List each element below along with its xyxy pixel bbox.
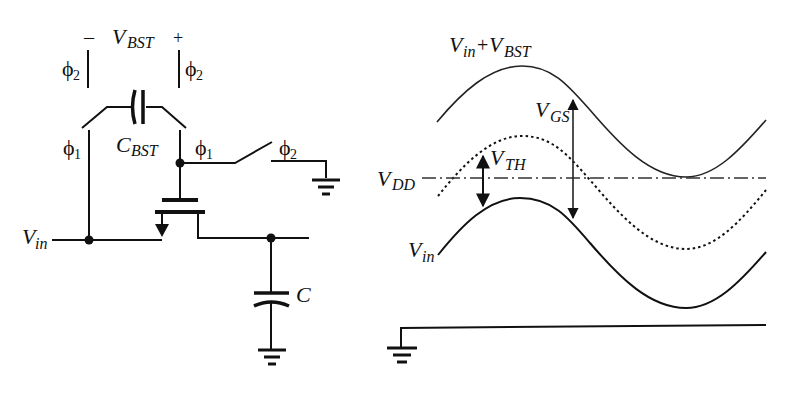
svg-text:V: V <box>112 24 128 49</box>
ground-icon <box>312 180 340 194</box>
ground-baseline <box>401 325 766 348</box>
phi1-right-label: ϕ 1 <box>195 135 213 162</box>
svg-text:V: V <box>489 32 505 57</box>
svg-text:+: + <box>173 28 183 48</box>
svg-text:V: V <box>490 145 506 170</box>
svg-text:1: 1 <box>74 147 81 162</box>
svg-text:ϕ: ϕ <box>279 135 291 160</box>
ground-icon <box>258 350 286 364</box>
svg-text:in: in <box>35 235 47 252</box>
vin-node-dot <box>85 236 94 245</box>
curve-vin-plus-vbst-minus-vth <box>438 136 766 249</box>
bootstrap-circuit: – V BST + ϕ 2 ϕ 2 C BST ϕ 1 <box>22 24 340 364</box>
phi1-left-label: ϕ 1 <box>63 135 81 162</box>
svg-text:V: V <box>377 166 393 191</box>
nmos-transistor-icon <box>155 200 270 238</box>
svg-text:TH: TH <box>505 156 527 173</box>
svg-text:BST: BST <box>127 34 155 51</box>
svg-text:1: 1 <box>206 147 213 162</box>
vdd-label: V DD <box>377 166 416 193</box>
vin-input-label: V in <box>22 224 47 252</box>
svg-text:GS: GS <box>550 108 570 125</box>
waveform-plot: V in + V BST V GS V TH V DD V in <box>377 32 766 362</box>
cbst-capacitor <box>82 90 186 128</box>
vgs-label: V GS <box>535 97 570 125</box>
svg-text:in: in <box>422 248 434 265</box>
svg-text:V: V <box>535 97 551 122</box>
vin-plus-vbst-label: V in + V BST <box>449 32 532 60</box>
svg-text:2: 2 <box>196 68 203 83</box>
vbst-label: – V BST + <box>83 24 183 51</box>
vth-label: V TH <box>490 145 527 173</box>
phi2-right-label: ϕ 2 <box>185 56 203 83</box>
svg-text:ϕ: ϕ <box>195 135 207 160</box>
svg-text:+: + <box>477 34 488 56</box>
svg-text:BST: BST <box>504 43 532 60</box>
svg-text:2: 2 <box>73 68 80 83</box>
bootstrapped-switch-figure: – V BST + ϕ 2 ϕ 2 C BST ϕ 1 <box>0 0 792 396</box>
phi2-left-label: ϕ 2 <box>62 56 80 83</box>
svg-text:ϕ: ϕ <box>62 56 74 81</box>
svg-text:ϕ: ϕ <box>63 135 75 160</box>
svg-text:DD: DD <box>391 176 416 193</box>
svg-text:C: C <box>116 132 131 157</box>
c-load-label: C <box>296 282 311 307</box>
cbst-label: C BST <box>116 132 159 159</box>
svg-text:in: in <box>463 43 475 60</box>
phi2-switch-label: ϕ 2 <box>279 135 297 162</box>
curve-vin-plus-vbst <box>437 66 766 177</box>
svg-text:ϕ: ϕ <box>185 56 197 81</box>
svg-text:–: – <box>83 26 95 48</box>
vin-curve-label: V in <box>408 237 434 265</box>
curve-vin <box>438 198 766 308</box>
svg-text:BST: BST <box>131 142 159 159</box>
ground-icon <box>387 348 417 362</box>
svg-text:2: 2 <box>290 147 297 162</box>
